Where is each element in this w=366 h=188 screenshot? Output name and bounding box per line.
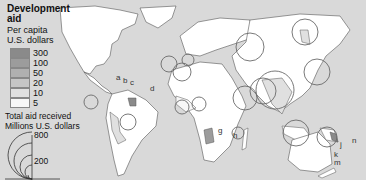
legend-class-100: 100 [10, 58, 70, 68]
scale-label-200: 200 [34, 156, 48, 166]
map-label-c: c [130, 78, 134, 87]
scale-label-800: 800 [34, 130, 48, 140]
land-north-america [60, 6, 138, 74]
land-africa [168, 62, 246, 162]
circle-scale-graphic [5, 132, 60, 180]
legend-swatch [10, 48, 30, 58]
map-label-g: g [218, 126, 222, 135]
legend-class-5: 5 [10, 98, 70, 108]
legend-total-label: Total aid received [5, 111, 71, 121]
map-label-b: b [123, 76, 127, 85]
aid-circle-morocco [161, 56, 177, 72]
map-label-h: h [233, 131, 237, 140]
legend-swatch [10, 78, 30, 88]
land-greenland [140, 6, 176, 28]
legend-class-300: 300 [10, 48, 70, 58]
map-label-m: m [334, 158, 341, 167]
legend-swatch [10, 88, 30, 98]
map-label-a: a [116, 73, 120, 82]
legend-class-10: 10 [10, 88, 70, 98]
map-label-d: d [150, 84, 154, 93]
legend-class-label: 20 [33, 78, 43, 88]
legend-swatch [10, 58, 30, 68]
legend-title-2: aid [7, 14, 21, 24]
aid-circle-tunisia [182, 54, 194, 66]
land-madagascar [242, 128, 248, 150]
legend-subtitle: Per capita [7, 25, 48, 35]
legend-subtitle-2: U.S. dollars [7, 35, 54, 45]
map-label-n: n [352, 136, 356, 145]
legend-class-label: 5 [33, 98, 38, 108]
legend-class-label: 50 [33, 68, 43, 78]
land-central-america [84, 72, 112, 94]
land-asia [232, 14, 350, 112]
legend-class-50: 50 [10, 68, 70, 78]
legend-class-20: 20 [10, 78, 70, 88]
legend-swatch [10, 98, 30, 108]
legend-swatch [10, 68, 30, 78]
legend-class-label: 300 [33, 48, 48, 58]
map-label-j: j [340, 140, 342, 149]
aid-circle-mexico [84, 95, 98, 109]
legend-class-label: 10 [33, 88, 43, 98]
legend-class-label: 100 [33, 58, 48, 68]
region-botswana [204, 128, 214, 144]
